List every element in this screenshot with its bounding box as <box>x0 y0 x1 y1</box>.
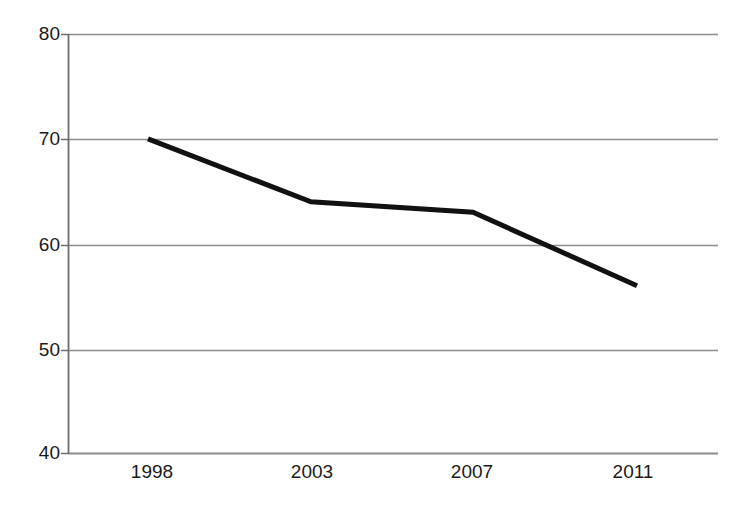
y-tick-label-60: 60 <box>14 235 60 254</box>
x-tick-label-2003: 2003 <box>267 462 357 481</box>
y-tick-label-70: 70 <box>14 129 60 148</box>
y-tick-label-80: 80 <box>14 24 60 43</box>
data-series <box>148 139 637 286</box>
x-tick-label-1998: 1998 <box>107 462 197 481</box>
line-chart: 80 70 60 50 40 1998 2003 2007 2011 <box>0 0 738 513</box>
gridlines <box>68 35 718 454</box>
chart-canvas <box>0 0 738 513</box>
y-axis <box>61 34 69 454</box>
series-line <box>148 139 637 286</box>
x-tick-label-2011: 2011 <box>588 462 678 481</box>
y-tick-label-40: 40 <box>14 443 60 462</box>
y-tick-label-50: 50 <box>14 340 60 359</box>
x-tick-label-2007: 2007 <box>427 462 517 481</box>
